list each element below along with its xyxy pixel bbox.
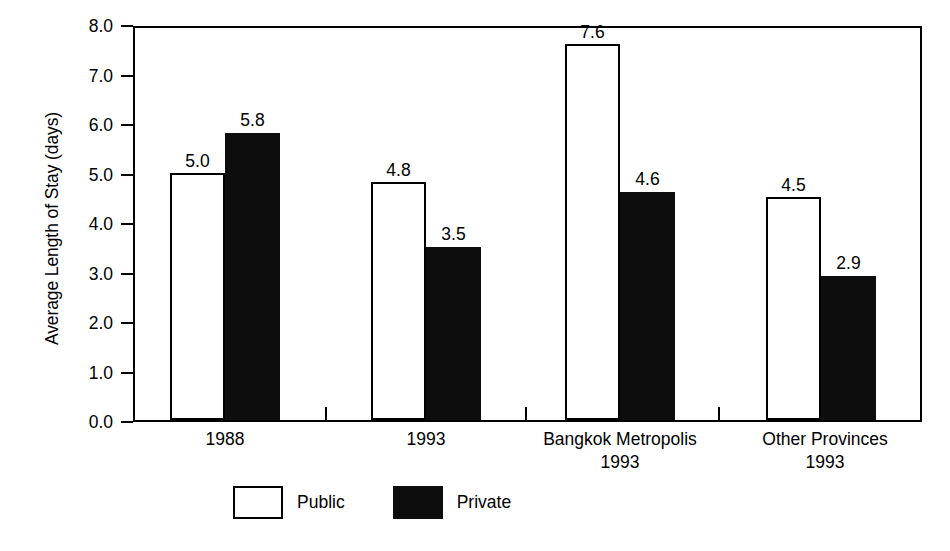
x-category-line2-bangkok-metropolis: 1993 (520, 451, 720, 474)
legend-label-public: Public (297, 492, 345, 513)
y-tick-label-3: 3.0 (0, 263, 113, 284)
y-tick-mark-6 (121, 124, 133, 126)
legend-swatch-public-icon (233, 486, 283, 519)
plot-area: 5.0 5.8 4.8 3.5 7.6 4.6 4.5 2.9 (133, 26, 922, 422)
x-category-line2-other-provinces: 1993 (735, 451, 915, 474)
bar-public-1993: 4.8 (371, 182, 426, 420)
y-tick-label-5: 5.0 (0, 164, 113, 185)
y-tick-label-0: 0.0 (0, 412, 113, 433)
y-tick-mark-8 (121, 25, 133, 27)
y-tick-label-8: 8.0 (0, 16, 113, 37)
y-tick-mark-3 (121, 273, 133, 275)
y-tick-mark-1 (121, 372, 133, 374)
bar-public-1988: 5.0 (170, 173, 225, 421)
legend-label-private: Private (457, 492, 511, 513)
y-tick-mark-0 (121, 421, 133, 423)
x-category-line1-other-provinces: Other Provinces (762, 429, 887, 449)
y-tick-mark-7 (121, 75, 133, 77)
legend-item-public: Public (233, 486, 345, 519)
y-tick-label-2: 2.0 (0, 313, 113, 334)
bar-value-public-other-provinces: 4.5 (781, 175, 805, 196)
y-tick-label-6: 6.0 (0, 115, 113, 136)
bar-public-other-provinces: 4.5 (766, 197, 821, 420)
bar-private-1988: 5.8 (225, 133, 280, 420)
y-tick-label-1: 1.0 (0, 362, 113, 383)
bar-value-public-1988: 5.0 (185, 151, 209, 172)
x-category-line1-1993: 1993 (407, 429, 446, 449)
bar-private-other-provinces: 2.9 (821, 276, 876, 420)
x-category-label-1988: 1988 (145, 428, 305, 451)
bar-value-private-1993: 3.5 (441, 224, 465, 245)
x-tick-separator-2 (525, 407, 527, 420)
bar-value-private-bangkok-metropolis: 4.6 (635, 169, 659, 190)
chart-figure: Average Length of Stay (days) 8.0 7.0 6.… (0, 0, 950, 551)
y-tick-mark-5 (121, 174, 133, 176)
y-tick-label-4: 4.0 (0, 214, 113, 235)
y-tick-mark-2 (121, 322, 133, 324)
legend-swatch-private-icon (393, 486, 443, 519)
x-tick-separator-1 (325, 407, 327, 420)
x-category-label-bangkok-metropolis: Bangkok Metropolis 1993 (520, 428, 720, 474)
x-category-label-other-provinces: Other Provinces 1993 (735, 428, 915, 474)
bar-value-private-other-provinces: 2.9 (836, 253, 860, 274)
y-tick-label-7: 7.0 (0, 65, 113, 86)
x-category-line1-1988: 1988 (206, 429, 245, 449)
y-tick-mark-4 (121, 223, 133, 225)
bar-private-bangkok-metropolis: 4.6 (620, 192, 675, 420)
legend-item-private: Private (393, 486, 511, 519)
bar-public-bangkok-metropolis: 7.6 (565, 44, 620, 420)
bar-value-public-1993: 4.8 (386, 160, 410, 181)
bar-value-public-bangkok-metropolis: 7.6 (580, 22, 604, 43)
x-category-line1-bangkok-metropolis: Bangkok Metropolis (543, 429, 697, 449)
x-tick-separator-3 (718, 407, 720, 420)
bar-value-private-1988: 5.8 (240, 110, 264, 131)
bar-private-1993: 3.5 (426, 247, 481, 420)
x-category-label-1993: 1993 (346, 428, 506, 451)
chart-legend: Public Private (233, 486, 511, 519)
